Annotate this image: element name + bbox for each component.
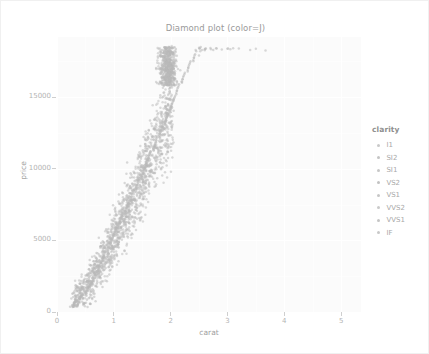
- x-tick-label: 2: [156, 317, 186, 325]
- chart-title: Diamond plot (color=J): [1, 23, 429, 33]
- legend-key-icon: [377, 219, 380, 222]
- legend-item[interactable]: VVS2: [372, 202, 405, 215]
- y-tick-label: 10000: [7, 164, 51, 172]
- legend-key-icon: [377, 156, 380, 159]
- legend-key-icon: [377, 169, 380, 172]
- x-tick-mark: [170, 312, 171, 316]
- legend-item-label: IF: [386, 229, 392, 237]
- y-tick-mark: [52, 312, 56, 313]
- legend-item[interactable]: VVS1: [372, 214, 405, 227]
- legend-item-label: SI1: [386, 166, 397, 174]
- legend-key-icon: [377, 206, 380, 209]
- x-tick-mark: [57, 312, 58, 316]
- x-tick-label: 4: [269, 317, 299, 325]
- x-tick-label: 1: [99, 317, 129, 325]
- y-axis-label: price: [19, 141, 28, 201]
- legend-item[interactable]: SI2: [372, 152, 405, 165]
- legend-items: I1SI2SI1VS2VS1VVS2VVS1IF: [372, 139, 405, 239]
- legend-key-icon: [377, 144, 380, 147]
- y-tick-label: 15000: [7, 92, 51, 100]
- chart-figure: Diamond plot (color=J) 050001000015000 0…: [0, 0, 429, 354]
- y-tick-mark: [52, 97, 56, 98]
- legend-item-label: VS1: [386, 191, 400, 199]
- legend-item[interactable]: VS1: [372, 189, 405, 202]
- y-tick-label: 5000: [7, 235, 51, 243]
- legend-item-label: VS2: [386, 179, 400, 187]
- x-tick-mark: [341, 312, 342, 316]
- legend-item[interactable]: SI1: [372, 164, 405, 177]
- x-axis-label: carat: [57, 328, 361, 337]
- plot-panel: [57, 37, 361, 312]
- legend-key-icon: [377, 194, 380, 197]
- legend: clarity I1SI2SI1VS2VS1VVS2VVS1IF: [372, 125, 405, 239]
- legend-item[interactable]: IF: [372, 227, 405, 240]
- x-tick-mark: [227, 312, 228, 316]
- x-tick-mark: [113, 312, 114, 316]
- scatter-canvas: [57, 37, 361, 312]
- x-tick-mark: [284, 312, 285, 316]
- legend-item[interactable]: VS2: [372, 177, 405, 190]
- legend-title: clarity: [372, 125, 405, 134]
- legend-key-icon: [377, 231, 380, 234]
- legend-item-label: SI2: [386, 154, 397, 162]
- x-tick-label: 5: [326, 317, 356, 325]
- y-tick-mark: [52, 240, 56, 241]
- x-tick-label: 3: [212, 317, 242, 325]
- legend-item-label: VVS2: [386, 204, 404, 212]
- y-tick-mark: [52, 168, 56, 169]
- legend-item-label: VVS1: [386, 216, 404, 224]
- x-tick-label: 0: [42, 317, 72, 325]
- legend-key-icon: [377, 181, 380, 184]
- legend-item-label: I1: [386, 141, 393, 149]
- legend-item[interactable]: I1: [372, 139, 405, 152]
- y-tick-label: 0: [7, 307, 51, 315]
